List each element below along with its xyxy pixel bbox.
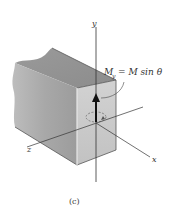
moment-label-subscript: y (111, 72, 116, 80)
x-axis-label: x (152, 155, 157, 164)
figure-caption: (c) (69, 197, 80, 206)
moment-label-rhs: = M sin θ (118, 67, 163, 77)
z-axis-label: z (26, 145, 32, 154)
beam-moment-diagram: y x z M y = M sin θ (c) (0, 0, 185, 211)
y-axis-label: y (91, 19, 97, 28)
